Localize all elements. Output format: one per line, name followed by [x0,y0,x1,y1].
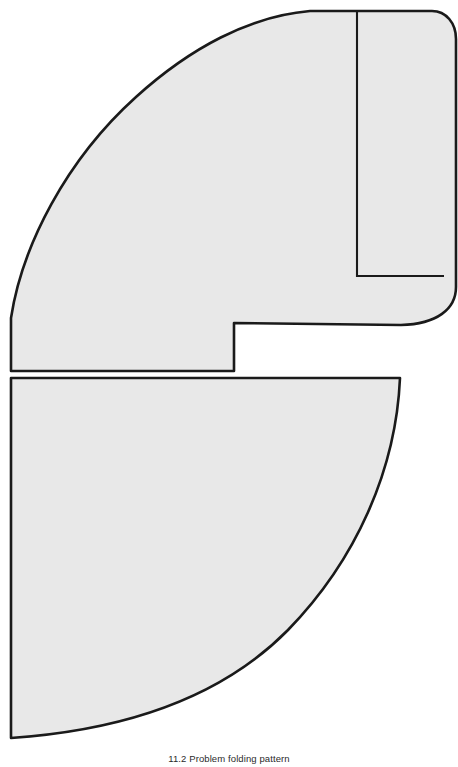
figure-page: 11.2 Problem folding pattern [0,0,458,767]
upper-lobe-shape [11,11,456,371]
lower-lobe-shape [11,378,400,738]
figure-caption: 11.2 Problem folding pattern [0,753,458,765]
folding-pattern-diagram [0,0,458,767]
